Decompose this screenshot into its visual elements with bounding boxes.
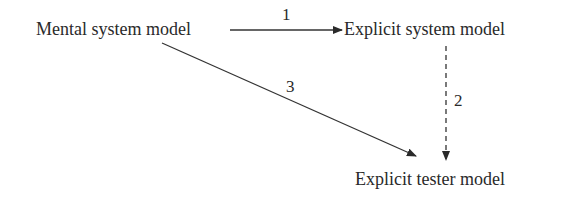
node-explicit-system-model: Explicit system model	[344, 19, 505, 39]
node-explicit-tester-model: Explicit tester model	[355, 169, 505, 189]
edge-2-label: 2	[454, 92, 463, 110]
edge-3-arrow	[162, 43, 416, 156]
edge-1-label: 1	[282, 6, 291, 24]
edge-3-label: 3	[286, 78, 295, 96]
node-mental-system-model: Mental system model	[36, 19, 191, 39]
